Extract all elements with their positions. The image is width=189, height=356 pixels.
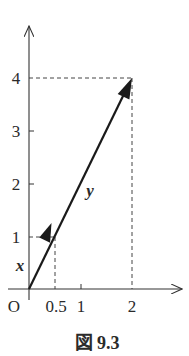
origin-label: O bbox=[8, 297, 20, 316]
vector-y bbox=[29, 78, 132, 289]
axes bbox=[8, 26, 182, 300]
vector-y-arrowhead-icon bbox=[118, 78, 132, 100]
x-tick-label-2: 2 bbox=[128, 297, 137, 316]
vector-x-arrowhead-icon bbox=[39, 223, 51, 243]
y-tick-labels: 4 3 2 1 bbox=[12, 69, 21, 247]
y-tick-label-2: 2 bbox=[12, 175, 21, 194]
vector-y-label: y bbox=[84, 181, 94, 200]
y-tick-label-4: 4 bbox=[12, 69, 21, 88]
vector-x-label: x bbox=[15, 256, 25, 275]
figure-caption: 図 9.3 bbox=[75, 333, 120, 353]
y-tick-label-1: 1 bbox=[12, 228, 21, 247]
y-tick-label-3: 3 bbox=[12, 122, 21, 141]
x-tick-label-0.5: 0.5 bbox=[45, 297, 66, 316]
vector-diagram: 4 3 2 1 O 0.5 1 2 x y 図 9.3 bbox=[0, 0, 189, 356]
x-tick-label-1: 1 bbox=[77, 297, 86, 316]
vector-y-shaft bbox=[29, 94, 124, 289]
x-tick-labels: O 0.5 1 2 bbox=[8, 297, 136, 316]
vector-x bbox=[39, 223, 51, 243]
